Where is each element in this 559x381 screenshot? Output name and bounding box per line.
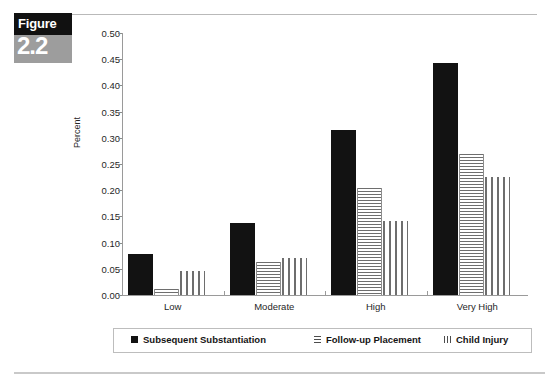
legend-item-subsequent-substantiation: Subsequent Substantiation [131,334,266,345]
bar [433,63,458,295]
bar [485,177,510,295]
legend-label-2: Child Injury [456,334,508,345]
legend-swatch-solid-icon [131,336,138,343]
legend-label-0: Subsequent Substantiation [143,334,266,345]
bar [357,188,382,295]
legend-swatch-vertical-stripes-icon [444,336,451,343]
bar [256,262,281,295]
legend-swatch-horizontal-stripes-icon [314,336,321,343]
legend-label-1: Follow-up Placement [326,334,421,345]
bar [331,130,356,295]
bar-group [122,33,224,295]
x-axis-group-separator [325,291,326,296]
bar-group [427,33,529,295]
legend-item-follow-up-placement: Follow-up Placement [314,334,421,345]
bar [459,154,484,295]
bar [180,271,205,295]
bar [128,254,153,295]
x-axis-group-separator [224,291,225,296]
x-axis-category-label: Low [164,301,181,312]
figure-badge-word: Figure [18,16,57,31]
bar-group [224,33,326,295]
bar [154,289,179,295]
chart-legend: Subsequent Substantiation Follow-up Plac… [113,328,532,353]
figure-badge-number: 2.2 [17,33,47,59]
x-axis-group-separator [427,291,428,296]
figure-badge: Figure 2.2 [14,13,72,63]
y-axis-title: Percent [72,134,82,148]
bar-group [325,33,427,295]
y-axis-tick-labels: 0.000.050.100.150.200.250.300.350.400.45… [88,27,120,295]
plot-area [122,33,528,295]
x-axis-category-label: Very High [457,301,498,312]
legend-item-child-injury: Child Injury [444,334,508,345]
bar [230,223,255,295]
bar [383,221,408,295]
bar [282,258,307,295]
x-axis-category-label: High [366,301,386,312]
x-axis-category-label: Moderate [254,301,294,312]
bar-chart: Percent 0.000.050.100.150.200.250.300.35… [0,0,559,381]
